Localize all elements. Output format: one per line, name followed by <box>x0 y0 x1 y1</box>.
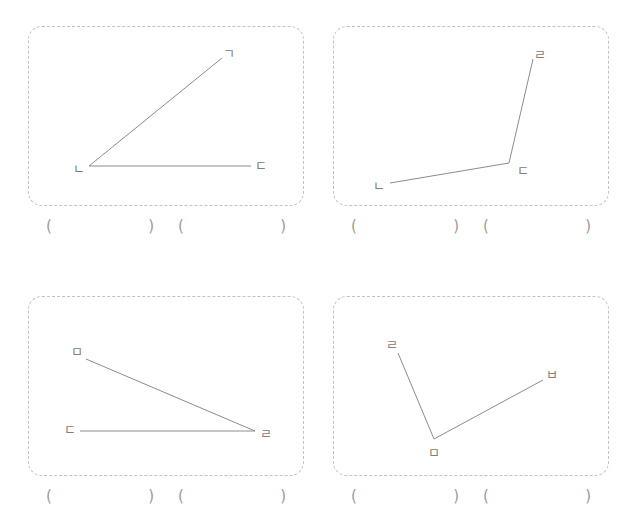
angle-figure-4 <box>334 297 610 477</box>
figure-panel-3: ㅁ ㄷ ㄹ <box>28 296 304 476</box>
close-paren: ) <box>585 487 591 505</box>
vertex-label-left: ㄹ <box>386 338 398 351</box>
problem-cell-1: ㄱ ㄴ ㄷ ( ) ( ) <box>28 26 308 241</box>
angle-figure-3 <box>29 297 305 477</box>
answer-blank-3b[interactable]: ( ) <box>178 485 286 507</box>
angle-ray-left <box>390 163 509 183</box>
vertex-label-right: ㄷ <box>255 159 267 172</box>
angle-ray-upper <box>89 58 222 166</box>
close-paren: ) <box>585 217 591 235</box>
vertex-label-left: ㄷ <box>64 423 76 436</box>
angle-ray-upper <box>86 359 255 431</box>
vertex-label-top: ㅁ <box>71 345 83 358</box>
close-paren: ) <box>148 217 154 235</box>
answer-blank-2a[interactable]: ( ) <box>351 215 459 237</box>
open-paren: ( <box>46 487 52 505</box>
vertex-label-top: ㄹ <box>534 48 546 61</box>
answer-row-3: ( ) ( ) <box>28 485 304 508</box>
open-paren: ( <box>483 487 489 505</box>
answer-blank-3a[interactable]: ( ) <box>46 485 154 507</box>
close-paren: ) <box>280 487 286 505</box>
problem-cell-4: ㄹ ㅂ ㅁ ( ) ( ) <box>333 296 613 508</box>
vertex-label-corner: ㄴ <box>73 162 85 175</box>
angle-ray-upper <box>509 59 533 163</box>
angle-worksheet: ㄱ ㄴ ㄷ ( ) ( ) ㄹ ㄷ <box>0 0 627 508</box>
problem-cell-2: ㄹ ㄷ ㄴ ( ) ( ) <box>333 26 613 241</box>
close-paren: ) <box>280 217 286 235</box>
vertex-label-top: ㄱ <box>223 47 235 60</box>
close-paren: ) <box>453 217 459 235</box>
answer-blank-4a[interactable]: ( ) <box>351 485 459 507</box>
figure-panel-1: ㄱ ㄴ ㄷ <box>28 26 304 206</box>
open-paren: ( <box>351 217 357 235</box>
vertex-label-corner: ㄹ <box>260 427 272 440</box>
open-paren: ( <box>46 217 52 235</box>
answer-blank-1b[interactable]: ( ) <box>178 215 286 237</box>
angle-ray-left <box>398 353 434 439</box>
answer-blank-4b[interactable]: ( ) <box>483 485 591 507</box>
close-paren: ) <box>148 487 154 505</box>
answer-blank-2b[interactable]: ( ) <box>483 215 591 237</box>
answer-row-4: ( ) ( ) <box>333 485 609 508</box>
open-paren: ( <box>178 217 184 235</box>
figure-panel-4: ㄹ ㅂ ㅁ <box>333 296 609 476</box>
open-paren: ( <box>483 217 489 235</box>
open-paren: ( <box>351 487 357 505</box>
close-paren: ) <box>453 487 459 505</box>
open-paren: ( <box>178 487 184 505</box>
answer-blank-1a[interactable]: ( ) <box>46 215 154 237</box>
figure-panel-2: ㄹ ㄷ ㄴ <box>333 26 609 206</box>
answer-row-1: ( ) ( ) <box>28 215 304 241</box>
vertex-label-right: ㅂ <box>546 368 558 381</box>
answer-row-2: ( ) ( ) <box>333 215 609 241</box>
angle-figure-1 <box>29 27 305 207</box>
vertex-label-corner: ㅁ <box>428 446 440 459</box>
vertex-label-left: ㄴ <box>373 179 385 192</box>
problem-cell-3: ㅁ ㄷ ㄹ ( ) ( ) <box>28 296 308 508</box>
vertex-label-corner: ㄷ <box>517 164 529 177</box>
angle-ray-right <box>434 380 543 439</box>
